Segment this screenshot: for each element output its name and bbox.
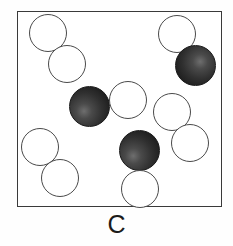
figure-label: C [0, 210, 233, 239]
open-circle-particle [48, 45, 86, 83]
shaded-sphere-particle [175, 45, 216, 86]
open-circle-particle [121, 170, 159, 208]
particle-diagram-figure: chemistry C [0, 0, 233, 246]
open-circle-particle [41, 159, 79, 197]
open-circle-particle [171, 124, 209, 162]
shaded-sphere-particle [119, 130, 160, 171]
open-circle-particle [109, 81, 147, 119]
shaded-sphere-particle [69, 86, 110, 127]
